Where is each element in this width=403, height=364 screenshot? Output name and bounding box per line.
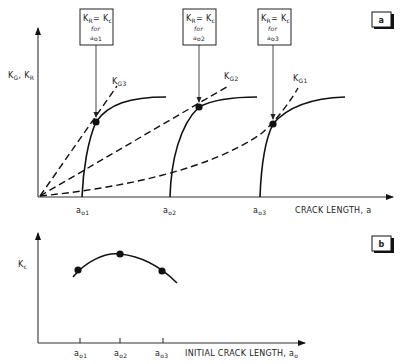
- panel-a: KG, KR CRACK LENGTH, a ao1 ao2 ao3 KG3 K…: [8, 9, 394, 216]
- kc-point-ao1: [74, 266, 81, 273]
- panel-a-tick-ao2: ao2: [163, 206, 176, 216]
- tangent-point-ao3: [269, 120, 276, 127]
- kg3-label: KG3: [112, 77, 127, 87]
- kg3-line: [40, 86, 117, 196]
- svg-text:ao1: ao1: [90, 34, 102, 42]
- callout-ao2: KR= Kc for ao2: [183, 9, 216, 102]
- panel-b: Kc ao1 ao2 ao3 INITIAL CRACK LENGTH, ao …: [18, 233, 394, 359]
- tangent-point-ao1: [92, 118, 99, 125]
- svg-text:KR= Kc: KR= Kc: [83, 14, 112, 24]
- panel-a-tag: a: [372, 12, 394, 29]
- kc-point-ao3: [158, 267, 165, 274]
- svg-text:b: b: [379, 240, 385, 249]
- panel-b-tick-ao3: ao3: [155, 349, 168, 359]
- callout-ao3: KR= Kc for ao3: [258, 9, 291, 119]
- panel-b-x-label: INITIAL CRACK LENGTH, ao: [185, 349, 298, 359]
- svg-text:a: a: [379, 16, 385, 25]
- callout-ao1: KR= Kc for ao1: [80, 9, 113, 117]
- panel-b-tick-ao2: ao2: [114, 349, 127, 359]
- panel-b-tag: b: [372, 236, 394, 253]
- kc-point-ao2: [116, 250, 123, 257]
- panel-a-tick-ao3: ao3: [253, 206, 266, 216]
- panel-a-y-label: KG, KR: [8, 71, 34, 81]
- kg1-line: [40, 88, 298, 196]
- panel-b-y-label: Kc: [18, 260, 27, 270]
- svg-text:ao2: ao2: [193, 34, 205, 42]
- kg2-line: [40, 85, 230, 196]
- kg2-label: KG2: [224, 72, 239, 82]
- svg-text:for: for: [91, 25, 100, 32]
- svg-text:ao3: ao3: [267, 34, 279, 42]
- svg-text:for: for: [268, 25, 277, 32]
- svg-text:KR= Kc: KR= Kc: [186, 14, 215, 24]
- panel-a-x-label: CRACK LENGTH, a: [295, 206, 371, 215]
- tangent-point-ao2: [195, 103, 202, 110]
- svg-text:for: for: [194, 25, 203, 32]
- panel-a-tick-ao1: ao1: [76, 206, 89, 216]
- diagram-canvas: KG, KR CRACK LENGTH, a ao1 ao2 ao3 KG3 K…: [0, 0, 403, 364]
- kg1-label: KG1: [293, 74, 308, 84]
- svg-text:KR= Kc: KR= Kc: [261, 14, 290, 24]
- kr-curve-ao1: [82, 97, 166, 197]
- panel-b-tick-ao1: ao1: [74, 349, 87, 359]
